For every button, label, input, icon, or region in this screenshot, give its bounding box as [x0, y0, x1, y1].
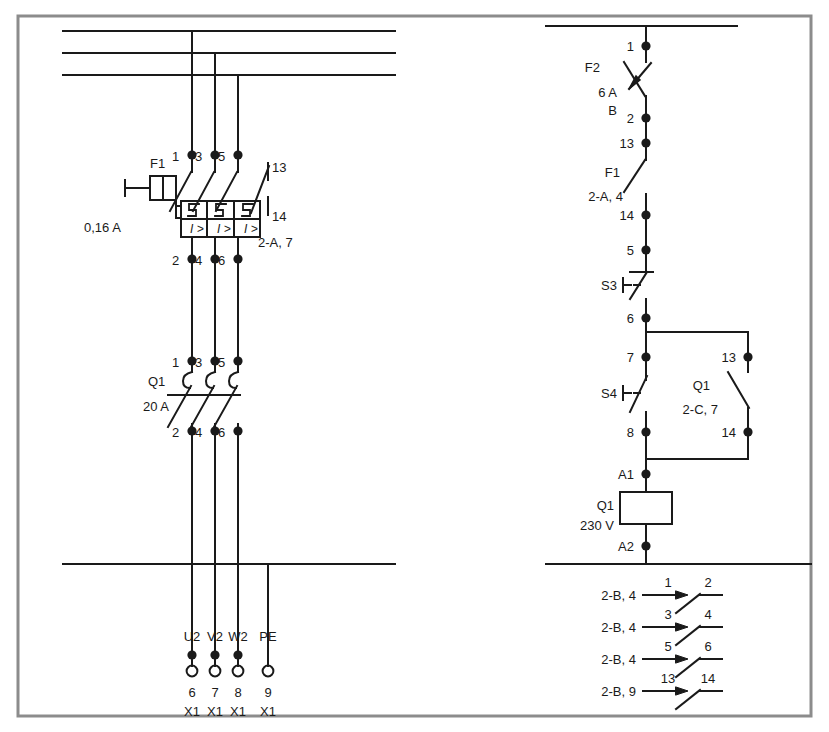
f1-aux-label-14: 14: [272, 209, 286, 224]
control-node-label-5: 5: [627, 243, 634, 258]
terminal-strip-6: X1: [184, 704, 200, 719]
terminal-strip-7: X1: [207, 704, 223, 719]
contact-ref-arrow-3: [676, 687, 688, 695]
q1-designation: Q1: [148, 374, 165, 389]
q1-coil-voltage: 230 V: [580, 518, 614, 533]
f1-in-label-3: 3: [195, 149, 202, 164]
contact-ref-terminal-out-2: 6: [704, 639, 711, 654]
contact-ref-terminal-out-1: 4: [704, 607, 711, 622]
terminal-ring-7: [210, 666, 221, 677]
q1-out-label-4: 4: [195, 425, 202, 440]
f1-blade-1: [193, 172, 214, 211]
q1-blade-0: [168, 386, 191, 427]
f1-out-label-4: 4: [195, 253, 202, 268]
terminal-number-9: 9: [264, 685, 271, 700]
conductor-label-U2: U2: [184, 629, 201, 644]
s4-designation: S4: [601, 386, 617, 401]
control-node-label-13: 13: [620, 136, 634, 151]
q1-in-label-1: 1: [172, 355, 179, 370]
terminal-ring-6: [187, 666, 198, 677]
f1-rating: 0,16 A: [84, 220, 121, 235]
terminal-number-6: 6: [188, 685, 195, 700]
q1-coil-designation: Q1: [597, 498, 614, 513]
f1c-designation: F1: [605, 165, 620, 180]
terminal-number-7: 7: [211, 685, 218, 700]
contact-ref-crossref-0: 2-B, 4: [601, 588, 636, 603]
contact-ref-arrow-0: [676, 591, 688, 599]
f1-in-label-1: 1: [172, 149, 179, 164]
contact-ref-terminal-in-1: 3: [664, 607, 671, 622]
schematic-sheet: F10,16 A135I >I >I >24613142-A, 7Q120 A1…: [0, 0, 829, 732]
q1-holding-blade: [728, 372, 749, 408]
q1-holding-label-14: 14: [722, 425, 736, 440]
contact-ref-arrow-1: [676, 623, 688, 631]
conductor-label-W2: W2: [228, 629, 248, 644]
contact-ref-terminal-out-0: 2: [704, 575, 711, 590]
control-node-label-A2: A2: [618, 539, 634, 554]
q1-coil-body: [620, 492, 672, 524]
q1-blade-1: [191, 386, 214, 427]
f1-overcurrent-symbol-1: I >: [217, 222, 231, 236]
q1-holding-label-13: 13: [722, 350, 736, 365]
q1-in-label-5: 5: [218, 355, 225, 370]
control-node-label-A1: A1: [618, 467, 634, 482]
f2-designation: F2: [585, 60, 600, 75]
terminal-number-8: 8: [234, 685, 241, 700]
terminal-strip-8: X1: [230, 704, 246, 719]
control-node-label-6: 6: [627, 311, 634, 326]
terminal-ring-9: [263, 666, 274, 677]
conductor-label-V2: V2: [207, 629, 223, 644]
f1-aux-crossref: 2-A, 7: [258, 235, 293, 250]
f1-thermal-hook-0: [188, 204, 199, 216]
f1-thermal-hook-1: [215, 204, 226, 216]
q1-in-label-3: 3: [195, 355, 202, 370]
f1-overcurrent-symbol-2: I >: [244, 222, 258, 236]
f1-overcurrent-symbol-0: I >: [190, 222, 204, 236]
q1-out-label-6: 6: [218, 425, 225, 440]
contact-ref-terminal-in-2: 5: [664, 639, 671, 654]
contact-ref-crossref-3: 2-B, 9: [601, 684, 636, 699]
contact-ref-crossref-2: 2-B, 4: [601, 652, 636, 667]
conductor-label-PE: PE: [259, 629, 277, 644]
f1-out-label-2: 2: [172, 253, 179, 268]
f1c-crossref: 2-A, 4: [588, 189, 623, 204]
q1-holding-designation: Q1: [693, 378, 710, 393]
f1-in-label-5: 5: [218, 149, 225, 164]
contact-ref-arrow-2: [676, 655, 688, 663]
control-node-label-2: 2: [627, 111, 634, 126]
f1-designation: F1: [150, 156, 165, 171]
f1-aux-label-13: 13: [272, 160, 286, 175]
q1-blade-2: [214, 386, 237, 427]
s3-designation: S3: [601, 278, 617, 293]
f2-characteristic: B: [608, 103, 617, 118]
q1-out-label-2: 2: [172, 425, 179, 440]
control-node-label-1: 1: [627, 39, 634, 54]
f1-out-label-6: 6: [218, 253, 225, 268]
control-node-label-7: 7: [627, 350, 634, 365]
q1-holding-node-14: [743, 427, 752, 436]
q1-rating: 20 A: [143, 399, 169, 414]
contact-ref-terminal-in-0: 1: [664, 575, 671, 590]
contact-ref-terminal-out-3: 14: [701, 671, 715, 686]
contact-ref-terminal-in-3: 13: [661, 671, 675, 686]
f1c-blade: [624, 160, 645, 192]
schematic-canvas: F10,16 A135I >I >I >24613142-A, 7Q120 A1…: [0, 0, 829, 732]
terminal-strip-9: X1: [260, 704, 276, 719]
control-node-label-14: 14: [620, 208, 634, 223]
q1-holding-crossref: 2-C, 7: [683, 402, 718, 417]
control-node-label-8: 8: [627, 425, 634, 440]
terminal-ring-8: [233, 666, 244, 677]
contact-ref-crossref-1: 2-B, 4: [601, 620, 636, 635]
sheet-frame: [18, 16, 811, 716]
f2-rating: 6 A: [598, 85, 617, 100]
